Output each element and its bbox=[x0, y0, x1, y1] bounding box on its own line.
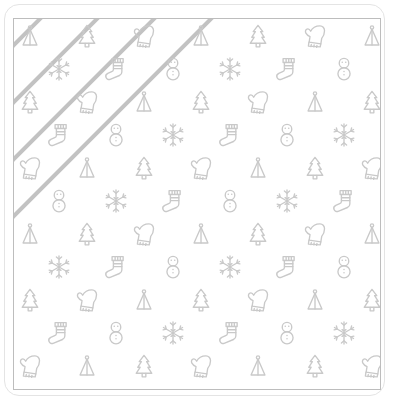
fir-tree-icon bbox=[17, 89, 43, 115]
cone-tree-icon bbox=[17, 23, 43, 49]
snowflake-icon bbox=[331, 122, 357, 148]
fir-tree-icon bbox=[188, 287, 214, 313]
snowman-icon bbox=[331, 56, 357, 82]
stocking-icon bbox=[331, 188, 357, 214]
cone-tree-icon bbox=[302, 287, 328, 313]
snowflake-icon bbox=[103, 188, 129, 214]
pattern-canvas bbox=[0, 0, 393, 404]
fir-tree-icon bbox=[131, 155, 157, 181]
snowman-icon bbox=[274, 320, 300, 346]
snowman-icon bbox=[217, 188, 243, 214]
mitten-icon bbox=[17, 353, 43, 379]
cone-tree-icon bbox=[74, 353, 100, 379]
mitten-icon bbox=[131, 23, 157, 49]
stocking-icon bbox=[103, 254, 129, 280]
stocking-icon bbox=[274, 254, 300, 280]
mitten-icon bbox=[17, 155, 43, 181]
mitten-icon bbox=[74, 89, 100, 115]
mitten-icon bbox=[245, 89, 271, 115]
cone-tree-icon bbox=[359, 23, 381, 49]
stocking-icon bbox=[274, 56, 300, 82]
snowflake-icon bbox=[217, 56, 243, 82]
snowman-icon bbox=[274, 122, 300, 148]
pattern-frame bbox=[13, 18, 381, 390]
mitten-icon bbox=[359, 155, 381, 181]
mitten-icon bbox=[245, 287, 271, 313]
snowman-icon bbox=[331, 254, 357, 280]
fir-tree-icon bbox=[359, 89, 381, 115]
cone-tree-icon bbox=[188, 23, 214, 49]
mitten-icon bbox=[302, 23, 328, 49]
fir-tree-icon bbox=[245, 221, 271, 247]
snowman-icon bbox=[160, 56, 186, 82]
cone-tree-icon bbox=[245, 155, 271, 181]
cone-tree-icon bbox=[131, 287, 157, 313]
stocking-icon bbox=[46, 122, 72, 148]
snowman-icon bbox=[46, 188, 72, 214]
mitten-icon bbox=[74, 287, 100, 313]
fir-tree-icon bbox=[17, 287, 43, 313]
mitten-icon bbox=[302, 221, 328, 247]
mitten-icon bbox=[131, 221, 157, 247]
cone-tree-icon bbox=[359, 221, 381, 247]
stocking-icon bbox=[217, 122, 243, 148]
snowflake-icon bbox=[217, 254, 243, 280]
mitten-icon bbox=[359, 353, 381, 379]
snowman-icon bbox=[103, 320, 129, 346]
stocking-icon bbox=[160, 188, 186, 214]
cone-tree-icon bbox=[131, 89, 157, 115]
snowman-icon bbox=[103, 122, 129, 148]
fir-tree-icon bbox=[74, 23, 100, 49]
fir-tree-icon bbox=[302, 155, 328, 181]
fir-tree-icon bbox=[302, 353, 328, 379]
cone-tree-icon bbox=[17, 221, 43, 247]
snowflake-icon bbox=[46, 254, 72, 280]
cone-tree-icon bbox=[188, 221, 214, 247]
fir-tree-icon bbox=[245, 23, 271, 49]
fir-tree-icon bbox=[131, 353, 157, 379]
snowflake-icon bbox=[160, 320, 186, 346]
cone-tree-icon bbox=[245, 353, 271, 379]
winter-icon-layer bbox=[14, 19, 380, 389]
snowflake-icon bbox=[160, 122, 186, 148]
cone-tree-icon bbox=[74, 155, 100, 181]
snowman-icon bbox=[160, 254, 186, 280]
stocking-icon bbox=[46, 320, 72, 346]
cone-tree-icon bbox=[302, 89, 328, 115]
snowflake-icon bbox=[274, 188, 300, 214]
snowflake-icon bbox=[331, 320, 357, 346]
mitten-icon bbox=[188, 353, 214, 379]
snowflake-icon bbox=[46, 56, 72, 82]
fir-tree-icon bbox=[74, 221, 100, 247]
stocking-icon bbox=[217, 320, 243, 346]
stocking-icon bbox=[103, 56, 129, 82]
fir-tree-icon bbox=[188, 89, 214, 115]
mitten-icon bbox=[188, 155, 214, 181]
fir-tree-icon bbox=[359, 287, 381, 313]
